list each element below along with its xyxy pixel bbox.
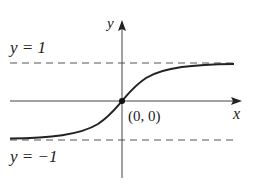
origin-label: (0, 0) bbox=[128, 109, 161, 124]
origin-point bbox=[119, 98, 125, 104]
asymptote-bottom-label: y = −1 bbox=[10, 148, 58, 165]
sigmoid-graph: y = 1 y = −1 (0, 0) x y bbox=[0, 0, 254, 186]
x-axis-label: x bbox=[233, 106, 240, 122]
asymptote-top-label: y = 1 bbox=[10, 39, 46, 56]
asymptote-top-text: y = 1 bbox=[10, 38, 46, 57]
asymptote-bottom-text: y = −1 bbox=[10, 147, 58, 166]
y-axis-label: y bbox=[107, 16, 114, 31]
